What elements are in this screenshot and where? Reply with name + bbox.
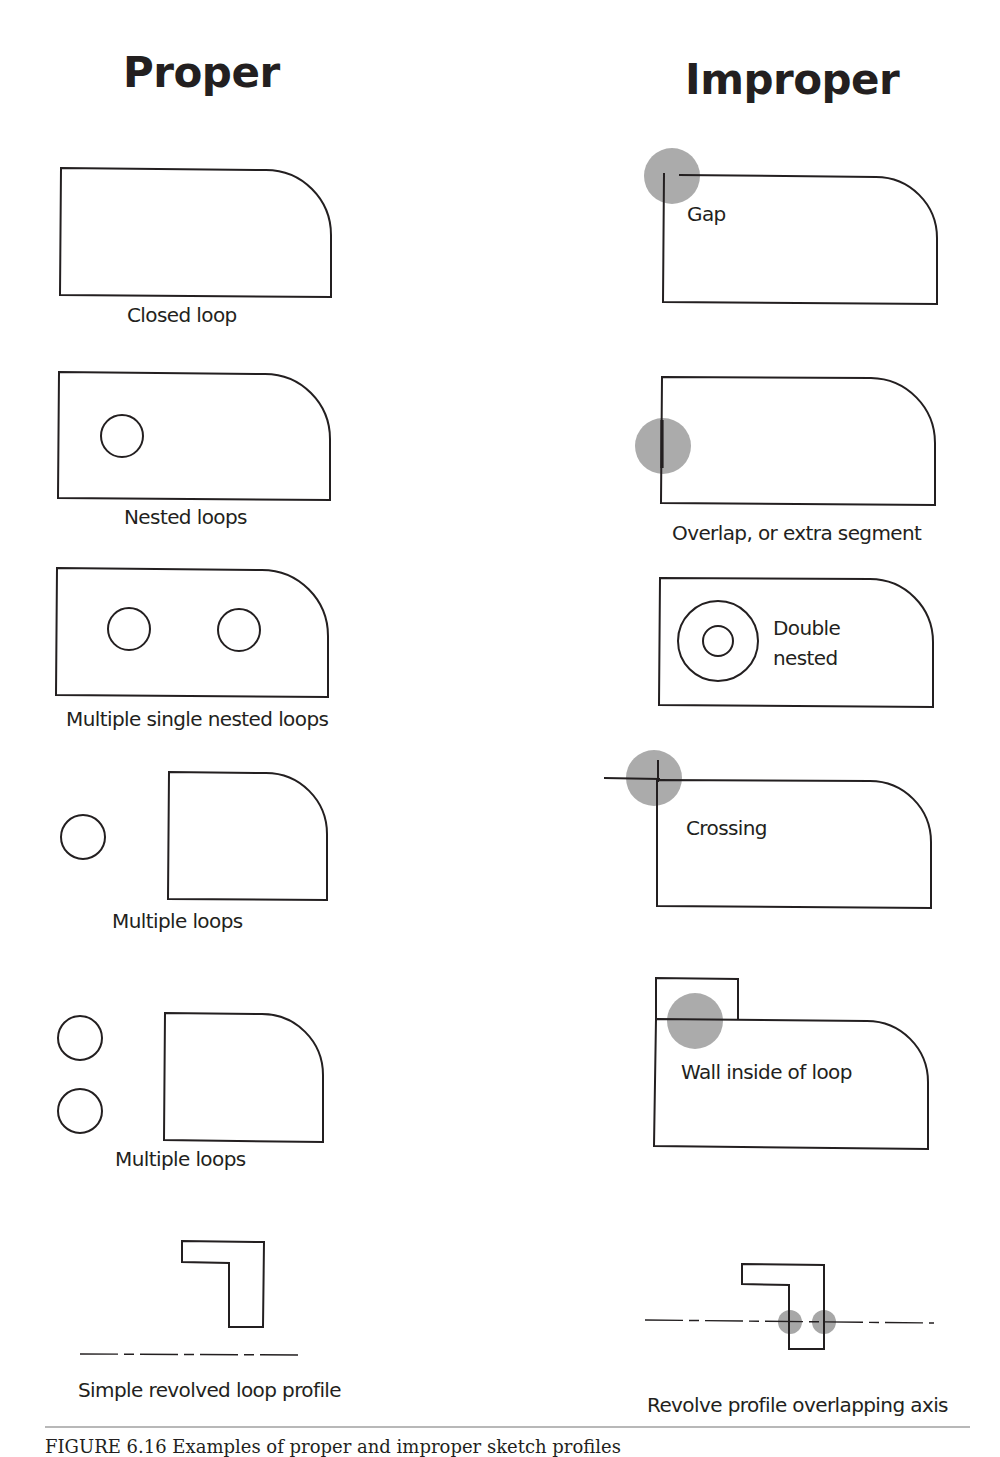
separate-circle-2a [58, 1016, 102, 1060]
nested-loop-circle [101, 415, 143, 457]
double-nested-outer-circle [678, 601, 758, 681]
crossing-extension-horizontal [604, 778, 660, 779]
wall-highlight [667, 993, 723, 1049]
nested-loops-outer-shape [58, 372, 330, 500]
nested-circle-1 [108, 608, 150, 650]
double-nested-label-line2: nested [773, 646, 838, 670]
overlap-shape [661, 377, 935, 505]
caption-divider [45, 1426, 970, 1428]
multiple-loops-shape-1 [168, 772, 327, 900]
multiple-nested-outer-shape [56, 568, 328, 697]
double-nested-outer-shape [659, 578, 933, 707]
figure-caption: FIGURE 6.16 Examples of proper and impro… [45, 1436, 621, 1457]
multiple-single-nested-loops-label: Multiple single nested loops [66, 707, 328, 731]
closed-loop-label: Closed loop [127, 303, 237, 327]
gap-label: Gap [687, 202, 726, 226]
closed-loop-shape [60, 168, 331, 297]
revolve-axis-centerline [80, 1354, 302, 1355]
revolved-l-profile [182, 1241, 264, 1327]
gap-shape [663, 173, 937, 304]
double-nested-inner-circle [703, 626, 733, 656]
double-nested-label-line1: Double [773, 616, 840, 640]
overlap-label: Overlap, or extra segment [672, 521, 921, 545]
crossing-label: Crossing [686, 816, 767, 840]
separate-circle-1 [61, 815, 105, 859]
separate-circle-2b [58, 1089, 102, 1133]
wall-inside-loop-label: Wall inside of loop [681, 1060, 852, 1084]
multiple-loops-shape-2 [164, 1013, 323, 1142]
multiple-loops-label-2: Multiple loops [115, 1147, 246, 1171]
revolve-overlap-label: Revolve profile overlapping axis [647, 1393, 948, 1417]
multiple-loops-label-1: Multiple loops [112, 909, 243, 933]
crossing-shape [657, 780, 931, 908]
nested-circle-2 [218, 609, 260, 651]
simple-revolved-label: Simple revolved loop profile [78, 1378, 341, 1402]
overlapping-l-profile [742, 1264, 824, 1349]
nested-loops-label: Nested loops [124, 505, 247, 529]
